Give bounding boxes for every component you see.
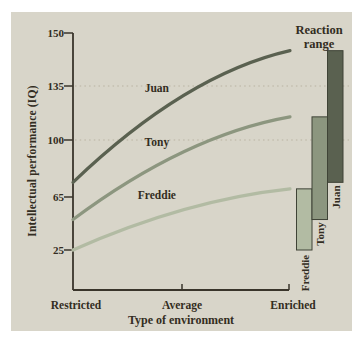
reaction-range-bar-juan: [328, 51, 344, 183]
x-tick-label-enriched: Enriched: [270, 299, 315, 312]
reaction-range-bar-freddie: [297, 189, 313, 250]
y-tick-label-100: 100: [34, 133, 64, 147]
bar-label-tony: Tony: [314, 222, 326, 245]
y-tick-label-25: 25: [34, 243, 64, 257]
curve-label-freddie: Freddie: [138, 189, 176, 201]
reaction-range-title-line2: range: [295, 38, 342, 52]
y-tick-label-150: 150: [34, 26, 64, 40]
curve-label-juan: Juan: [145, 82, 169, 94]
bar-label-freddie: Freddie: [299, 255, 311, 291]
curve-tony: [73, 117, 290, 220]
y-tick-label-135: 135: [34, 79, 64, 93]
y-axis-title: Intellectual performance (IQ): [26, 85, 38, 236]
x-tick-label-restricted: Restricted: [51, 299, 101, 312]
reaction-range-bar-tony: [312, 117, 328, 220]
bar-label-juan: Juan: [330, 185, 342, 208]
reaction-range-title-line1: Reaction: [295, 24, 342, 38]
x-tick-label-average: Average: [162, 299, 202, 312]
y-tick-label-65: 65: [34, 190, 64, 204]
curve-juan: [73, 51, 290, 183]
chart-canvas: [0, 0, 358, 348]
curve-label-tony: Tony: [145, 136, 170, 148]
reaction-range-title: Reaction range: [295, 24, 342, 51]
x-axis-title: Type of environment: [128, 313, 234, 328]
reaction-range-figure: Intellectual performance (IQ) Type of en…: [0, 0, 358, 348]
